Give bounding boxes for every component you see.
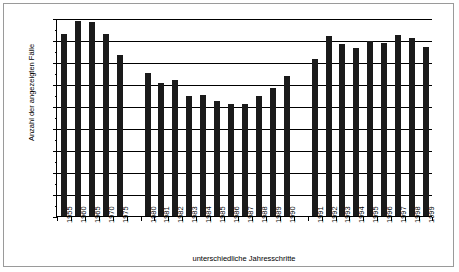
bar [61, 34, 67, 216]
x-tick-mark [141, 217, 142, 221]
bar [145, 73, 151, 216]
bar [158, 83, 164, 216]
y-tick-mark [53, 63, 57, 64]
x-tick-label: 1992 [331, 206, 339, 223]
bar [228, 104, 234, 216]
y-tick-minor [55, 140, 57, 141]
x-tick-label: 1981 [163, 206, 171, 223]
x-tick-label: 1997 [400, 206, 408, 223]
bar [353, 48, 359, 216]
y-tick-minor [55, 162, 57, 163]
bar [242, 104, 248, 216]
x-tick-label: 1965 [94, 206, 102, 223]
bar [312, 59, 318, 216]
y-tick-mark [53, 107, 57, 108]
x-tick-label: 1955 [66, 206, 74, 223]
x-tick-mark [57, 217, 58, 221]
x-tick-label: 1989 [275, 206, 283, 223]
bar [200, 95, 206, 216]
x-tick-label: 1990 [289, 206, 297, 223]
gridline [57, 85, 432, 86]
y-tick-mark [53, 173, 57, 174]
bar [284, 76, 290, 216]
x-tick-label: 1993 [344, 206, 352, 223]
chart-figure-frame: Anzahl der angezeigten Fälle 02000400060… [3, 3, 454, 267]
y-tick-mark [53, 195, 57, 196]
x-tick-mark [308, 217, 309, 221]
y-tick-minor [55, 206, 57, 207]
x-tick-label: 1987 [247, 206, 255, 223]
y-tick-minor [55, 96, 57, 97]
y-tick-minor [55, 184, 57, 185]
bar [395, 35, 401, 217]
y-axis-title: Anzahl der angezeigten Fälle [27, 18, 36, 168]
gridline [57, 63, 432, 64]
bar [214, 101, 220, 216]
plot-area: 0200040006000800010000120001400016000180… [56, 19, 432, 217]
y-tick-mark [53, 85, 57, 86]
y-tick-minor [55, 74, 57, 75]
bar [423, 47, 429, 216]
x-tick-label: 1985 [219, 206, 227, 223]
x-tick-label: 1995 [372, 206, 380, 223]
x-tick-label: 1998 [414, 206, 422, 223]
x-tick-label: 1996 [386, 206, 394, 223]
x-axis-title: unterschiedliche Jahresschritte [56, 254, 432, 263]
y-tick-minor [55, 30, 57, 31]
gridline [57, 41, 432, 42]
x-tick-label: 1991 [317, 206, 325, 223]
x-tick-label: 1980 [150, 206, 158, 223]
x-tick-label: 1988 [261, 206, 269, 223]
y-tick-mark [53, 151, 57, 152]
x-tick-label: 1970 [108, 206, 116, 223]
x-tick-label: 1994 [358, 206, 366, 223]
y-tick-mark [53, 41, 57, 42]
y-tick-minor [55, 118, 57, 119]
bar [339, 44, 345, 216]
x-tick-label: 1999 [428, 206, 436, 223]
x-axis-tick-labels: 1955196019651970197519801981198219831984… [56, 223, 432, 253]
bar [381, 43, 387, 216]
bar [186, 96, 192, 216]
bar [256, 96, 262, 216]
x-tick-label: 1982 [177, 206, 185, 223]
gridline [57, 19, 432, 20]
bar [117, 55, 123, 216]
bar [75, 21, 81, 216]
x-tick-label: 1984 [205, 206, 213, 223]
bar [326, 36, 332, 216]
x-tick-label: 1960 [80, 206, 88, 223]
bar [367, 41, 373, 216]
x-tick-label: 1983 [191, 206, 199, 223]
bar [270, 88, 276, 216]
bar [409, 38, 415, 216]
x-tick-label: 1986 [233, 206, 241, 223]
y-tick-minor [55, 52, 57, 53]
y-tick-mark [53, 19, 57, 20]
x-tick-label: 1975 [122, 206, 130, 223]
bar [103, 34, 109, 216]
y-tick-mark [53, 129, 57, 130]
bar [172, 80, 178, 216]
bar [89, 22, 95, 216]
